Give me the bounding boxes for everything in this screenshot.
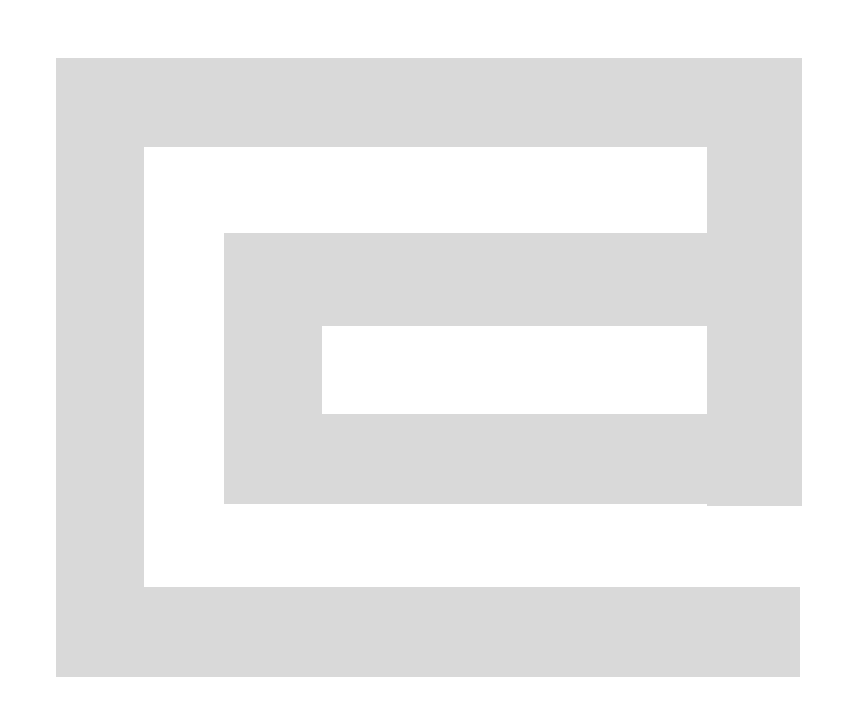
figure-canvas <box>0 0 843 727</box>
rectangular-spiral-figure <box>0 0 843 727</box>
